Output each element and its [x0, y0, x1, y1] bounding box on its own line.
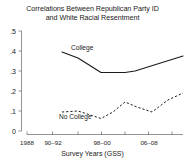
series-annotation-college: College: [71, 44, 93, 51]
chart-container: Correlations Between Republican Party ID…: [0, 0, 185, 166]
series-line-college: [62, 52, 183, 73]
series-annotation-no-college: No College: [59, 113, 92, 120]
y-axis: [19, 31, 22, 131]
x-axis: [27, 132, 183, 135]
plot-area: [0, 0, 185, 166]
